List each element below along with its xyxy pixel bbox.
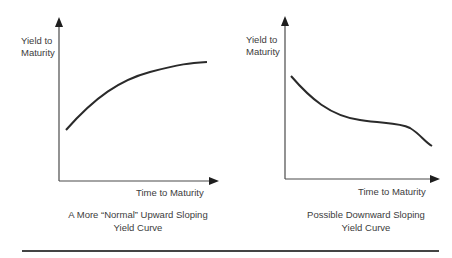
left-x-axis-arrow-icon: [209, 177, 219, 185]
left-y-axis-label-line2: Maturity: [21, 47, 55, 59]
left-x-axis-label: Time to Maturity: [136, 187, 204, 199]
right-y-axis-label-line1: Yield to: [246, 34, 280, 46]
right-caption-line2: Yield Curve: [296, 221, 436, 234]
left-caption-line2: Yield Curve: [52, 221, 224, 234]
right-caption-line1: Possible Downward Sloping: [296, 208, 436, 221]
left-y-axis-label: Yield to Maturity: [21, 35, 55, 59]
left-y-axis-arrow-icon: [55, 17, 63, 27]
right-chart-axes: [281, 16, 440, 183]
right-yield-curve: [291, 76, 432, 146]
right-x-axis-arrow-icon: [430, 175, 440, 183]
left-yield-curve: [66, 62, 207, 130]
right-chart-caption: Possible Downward Sloping Yield Curve: [296, 208, 436, 234]
left-caption-line1: A More “Normal” Upward Sloping: [52, 208, 224, 221]
right-y-axis-label: Yield to Maturity: [246, 34, 280, 58]
right-y-axis-label-line2: Maturity: [246, 46, 280, 58]
left-chart-caption: A More “Normal” Upward Sloping Yield Cur…: [52, 208, 224, 234]
bottom-divider: [22, 250, 439, 252]
right-x-axis-label: Time to Maturity: [358, 186, 426, 198]
left-chart-axes: [55, 17, 219, 185]
right-y-axis-arrow-icon: [281, 16, 289, 26]
left-y-axis-label-line1: Yield to: [21, 35, 55, 47]
